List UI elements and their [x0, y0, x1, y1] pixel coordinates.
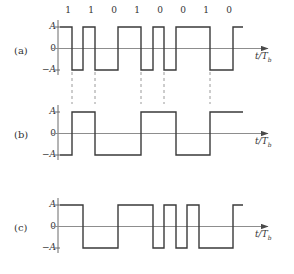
waveform-group-a	[52, 20, 268, 75]
line-coding-figure: (a) (b) (c) A 0 −A A 0 −A A 0 −A 1 1 0 1…	[0, 0, 294, 274]
waveform-group-b	[52, 105, 268, 160]
dashed-markers	[72, 72, 210, 104]
waveform-group-c	[52, 198, 268, 253]
waveform-canvas	[0, 0, 294, 274]
